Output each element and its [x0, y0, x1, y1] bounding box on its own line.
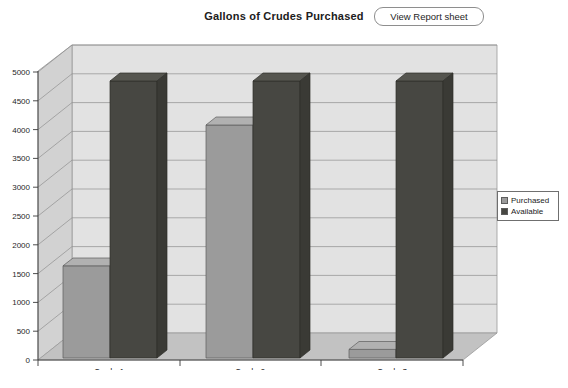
y-tick-label: 1000 [12, 298, 30, 307]
bar-crude-3-available[interactable] [396, 73, 453, 358]
bar-front-face [349, 349, 396, 358]
y-tick-label: 1500 [12, 270, 30, 279]
x-axis-ticks [38, 360, 463, 366]
y-tick-label: 2000 [12, 241, 30, 250]
y-tick-label: 4500 [12, 97, 30, 106]
bar-front-face [396, 81, 443, 358]
y-tick-label: 5000 [12, 68, 30, 77]
view-report-sheet-button[interactable]: View Report sheet [374, 7, 484, 26]
bar-side-face [443, 73, 453, 358]
y-tick-label: 2500 [12, 212, 30, 221]
legend-label-available: Available [511, 207, 543, 216]
bar-front-face [110, 81, 157, 358]
legend-item-purchased[interactable]: Purchased [501, 195, 555, 206]
legend-swatch-available [501, 208, 508, 215]
x-tick-label: Crude 2 [235, 367, 266, 370]
legend-label-purchased: Purchased [511, 196, 549, 205]
bar-front-face [63, 266, 110, 358]
bar-front-face [253, 81, 300, 358]
legend-swatch-purchased [501, 197, 508, 204]
chart-legend: Purchased Available [497, 191, 559, 221]
y-tick-label: 0 [26, 356, 31, 365]
y-tick-label: 500 [17, 327, 31, 336]
bar-side-face [300, 73, 310, 358]
bar-side-face [157, 73, 167, 358]
bar-front-face [206, 125, 253, 358]
y-axis-tick-labels: 0 500 1000 1500 2000 2500 3000 3500 4000… [12, 68, 30, 365]
y-tick-label: 3500 [12, 154, 30, 163]
y-axis-ticks [33, 72, 38, 360]
chart-3d-bar: 0 500 1000 1500 2000 2500 3000 3500 4000… [0, 30, 568, 370]
x-tick-label: Crude 1 [94, 367, 125, 370]
x-tick-label: Crude 3 [377, 367, 408, 370]
bar-crude-1-available[interactable] [110, 73, 167, 358]
y-tick-label: 4000 [12, 126, 30, 135]
x-axis-tick-labels: Crude 1 Crude 2 Crude 3 [94, 367, 408, 370]
bar-crude-2-available[interactable] [253, 73, 310, 358]
y-tick-label: 3000 [12, 183, 30, 192]
legend-item-available[interactable]: Available [501, 206, 555, 217]
chart-canvas: 0 500 1000 1500 2000 2500 3000 3500 4000… [0, 30, 568, 370]
